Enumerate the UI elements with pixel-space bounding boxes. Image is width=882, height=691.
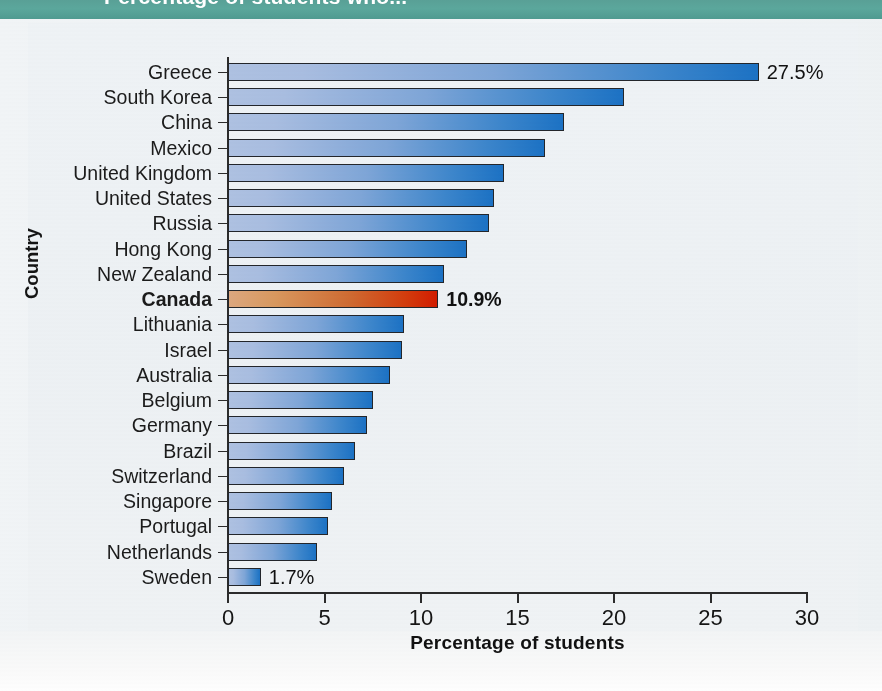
bar: [228, 442, 355, 460]
x-axis-tick-label: 0: [222, 605, 234, 631]
x-axis-tick-label: 10: [409, 605, 433, 631]
x-axis-tick-label: 15: [505, 605, 529, 631]
category-label: United Kingdom: [73, 162, 212, 185]
y-axis-tick: [218, 324, 227, 325]
bar-row: Netherlands: [227, 540, 806, 565]
bar: [228, 88, 624, 106]
bar: [228, 366, 390, 384]
bar-row: Portugal: [227, 514, 806, 539]
bar: [228, 240, 467, 258]
y-axis-tick: [218, 451, 227, 452]
bar-value-label: 27.5%: [767, 60, 824, 84]
category-label: Hong Kong: [114, 238, 212, 261]
bar-row: China: [227, 110, 806, 135]
y-axis-tick: [218, 274, 227, 275]
x-axis-tick: [517, 594, 519, 603]
bar: [228, 113, 564, 131]
category-label: Switzerland: [111, 465, 212, 488]
bar: [228, 63, 759, 81]
category-label: Germany: [132, 414, 212, 437]
y-axis-tick: [218, 476, 227, 477]
bar: [228, 492, 332, 510]
y-axis-tick: [218, 97, 227, 98]
bar-row: Australia: [227, 363, 806, 388]
bar-row: United Kingdom: [227, 161, 806, 186]
figure-area: Greece27.5%South KoreaChinaMexicoUnited …: [0, 19, 882, 691]
bar-row: Switzerland: [227, 464, 806, 489]
x-axis-tick-label: 30: [795, 605, 819, 631]
bar-row: Germany: [227, 413, 806, 438]
bar-row: United States: [227, 186, 806, 211]
category-label: Canada: [142, 288, 212, 311]
category-label: Sweden: [142, 566, 212, 589]
category-label: Singapore: [123, 490, 212, 513]
y-axis-tick: [218, 122, 227, 123]
category-label: Greece: [148, 61, 212, 84]
x-axis-tick: [227, 594, 229, 603]
chart-page: Percentage of students who... Greece27.5…: [0, 0, 882, 691]
y-axis-tick: [218, 577, 227, 578]
bar: [228, 543, 317, 561]
x-axis-tick: [710, 594, 712, 603]
x-axis-tick: [806, 594, 808, 603]
bar-value-label: 1.7%: [269, 565, 315, 589]
bar: [228, 315, 404, 333]
header-banner: Percentage of students who...: [0, 0, 882, 19]
bar-row: Sweden1.7%: [227, 565, 806, 590]
bar: [228, 568, 261, 586]
category-label: Russia: [152, 212, 212, 235]
category-label: South Korea: [104, 86, 212, 109]
y-axis-tick: [218, 375, 227, 376]
y-axis-tick: [218, 552, 227, 553]
x-axis-title: Percentage of students: [227, 632, 808, 654]
category-label: Israel: [164, 339, 212, 362]
bar-row: Hong Kong: [227, 237, 806, 262]
bar-row: Mexico: [227, 136, 806, 161]
bar: [228, 467, 344, 485]
bar: [228, 214, 489, 232]
category-label: United States: [95, 187, 212, 210]
category-label: Belgium: [142, 389, 212, 412]
bar: [228, 391, 373, 409]
y-axis-tick: [218, 249, 227, 250]
y-axis-title: Country: [21, 228, 43, 299]
category-label: Mexico: [150, 137, 212, 160]
bar-row: Canada10.9%: [227, 287, 806, 312]
x-axis-tick-label: 20: [602, 605, 626, 631]
bar: [228, 265, 444, 283]
y-axis-tick: [218, 198, 227, 199]
y-axis-tick: [218, 223, 227, 224]
y-axis-tick: [218, 350, 227, 351]
bar-row: Greece27.5%: [227, 60, 806, 85]
bar-value-label: 10.9%: [446, 287, 501, 311]
category-label: Australia: [136, 364, 212, 387]
plot-area: Greece27.5%South KoreaChinaMexicoUnited …: [227, 60, 806, 590]
y-axis-tick: [218, 299, 227, 300]
bar-row: Israel: [227, 338, 806, 363]
x-axis-tick-label: 25: [698, 605, 722, 631]
bar: [228, 341, 402, 359]
bar-row: Singapore: [227, 489, 806, 514]
bar-row: Brazil: [227, 439, 806, 464]
category-label: Lithuania: [133, 313, 212, 336]
category-label: China: [161, 111, 212, 134]
y-axis-tick: [218, 173, 227, 174]
bar: [228, 189, 494, 207]
bar-row: Belgium: [227, 388, 806, 413]
y-axis-tick: [218, 400, 227, 401]
category-label: Portugal: [139, 515, 212, 538]
category-label: New Zealand: [97, 263, 212, 286]
y-axis-tick: [218, 148, 227, 149]
bar-row: Russia: [227, 211, 806, 236]
y-axis-tick: [218, 501, 227, 502]
bar: [228, 164, 504, 182]
category-label: Netherlands: [107, 541, 212, 564]
y-axis-tick: [218, 72, 227, 73]
x-axis-tick-label: 5: [318, 605, 330, 631]
y-axis-tick: [218, 526, 227, 527]
bar-row: South Korea: [227, 85, 806, 110]
banner-title: Percentage of students who...: [104, 0, 407, 9]
x-axis-tick: [324, 594, 326, 603]
y-axis-tick: [218, 425, 227, 426]
category-label: Brazil: [163, 440, 212, 463]
